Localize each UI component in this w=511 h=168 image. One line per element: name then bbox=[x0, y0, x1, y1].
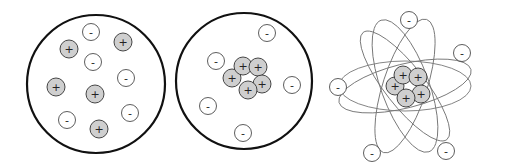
plum-pudding-model: -----+++++ bbox=[27, 15, 165, 153]
electron-icon: - bbox=[208, 53, 225, 70]
minus-sign: - bbox=[89, 26, 93, 39]
electron-icon: - bbox=[259, 25, 276, 42]
electron-orbit bbox=[347, 20, 462, 152]
nuclear-model: +++++----- bbox=[176, 13, 312, 149]
minus-sign: - bbox=[460, 47, 464, 60]
plus-sign: + bbox=[243, 84, 252, 97]
electron-icon: - bbox=[401, 12, 418, 29]
electron-icon: - bbox=[438, 143, 455, 160]
electron-orbit bbox=[334, 48, 477, 124]
plus-sign: + bbox=[413, 71, 422, 84]
minus-sign: - bbox=[128, 107, 132, 120]
minus-sign: - bbox=[336, 81, 340, 94]
electron-icon: - bbox=[284, 77, 301, 94]
plus-sign: + bbox=[257, 78, 266, 91]
minus-sign: - bbox=[290, 79, 294, 92]
proton-icon: + bbox=[114, 33, 132, 51]
proton-icon: + bbox=[60, 40, 78, 58]
planetary-model: +++++----- bbox=[330, 12, 477, 162]
plus-sign: + bbox=[64, 43, 73, 56]
electron-icon: - bbox=[118, 70, 135, 87]
plus-sign: + bbox=[94, 123, 103, 136]
electron-icon: - bbox=[364, 145, 381, 162]
minus-sign: - bbox=[65, 114, 69, 127]
proton-icon: + bbox=[86, 85, 104, 103]
electron-icon: - bbox=[83, 24, 100, 41]
proton-icon: + bbox=[47, 78, 65, 96]
plus-sign: + bbox=[51, 81, 60, 94]
plus-sign: + bbox=[90, 88, 99, 101]
plus-sign: + bbox=[238, 60, 247, 73]
electron-orbit bbox=[362, 13, 447, 160]
plus-sign: + bbox=[416, 88, 425, 101]
minus-sign: - bbox=[444, 145, 448, 158]
minus-sign: - bbox=[370, 147, 374, 160]
electron-icon: - bbox=[454, 45, 471, 62]
minus-sign: - bbox=[214, 55, 218, 68]
proton-icon: + bbox=[409, 68, 427, 86]
electron-icon: - bbox=[122, 105, 139, 122]
proton-icon: + bbox=[90, 120, 108, 138]
proton-icon: + bbox=[239, 81, 257, 99]
electron-icon: - bbox=[200, 98, 217, 115]
minus-sign: - bbox=[206, 100, 210, 113]
plus-sign: + bbox=[227, 72, 236, 85]
plus-sign: + bbox=[118, 36, 127, 49]
minus-sign: - bbox=[265, 27, 269, 40]
plus-sign: + bbox=[398, 69, 407, 82]
proton-icon: + bbox=[397, 89, 415, 107]
electron-icon: - bbox=[235, 125, 252, 142]
minus-sign: - bbox=[407, 14, 411, 27]
electron-icon: - bbox=[330, 79, 347, 96]
plus-sign: + bbox=[253, 61, 262, 74]
electron-icon: - bbox=[85, 54, 102, 71]
proton-icon: + bbox=[249, 58, 267, 76]
atomic-models-diagram: -----+++++ +++++----- +++++----- bbox=[0, 0, 511, 168]
electron-icon: - bbox=[59, 112, 76, 129]
minus-sign: - bbox=[241, 127, 245, 140]
minus-sign: - bbox=[124, 72, 128, 85]
minus-sign: - bbox=[91, 56, 95, 69]
plus-sign: + bbox=[401, 92, 410, 105]
